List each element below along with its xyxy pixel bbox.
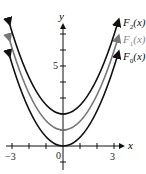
y-axis-label: y bbox=[59, 11, 64, 22]
tick-label-0: 0 bbox=[56, 151, 61, 161]
legend-F2: F2(x) bbox=[123, 17, 145, 33]
x-axis-label: x bbox=[128, 140, 133, 151]
tick-label-neg3: −3 bbox=[5, 152, 16, 162]
tick-label-5: 5 bbox=[53, 61, 58, 71]
tick-label-3: 3 bbox=[110, 152, 115, 162]
legend-F0: F0(x) bbox=[123, 51, 145, 67]
legend-F1: F1(x) bbox=[123, 34, 145, 50]
